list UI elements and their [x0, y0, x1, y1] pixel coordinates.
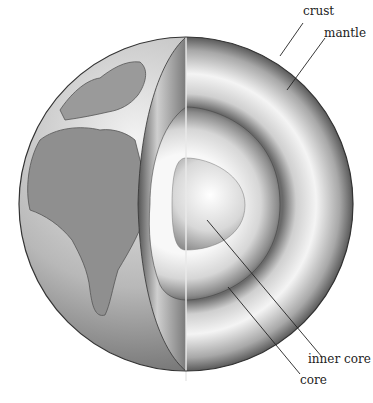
label-core: core — [300, 373, 327, 387]
crust-leader — [280, 23, 303, 56]
mantle-leader — [287, 38, 325, 90]
label-inner-core: inner core — [308, 352, 371, 366]
label-crust: crust — [303, 4, 334, 18]
label-mantle: mantle — [324, 26, 366, 40]
earth-cutaway-diagram — [0, 0, 373, 403]
